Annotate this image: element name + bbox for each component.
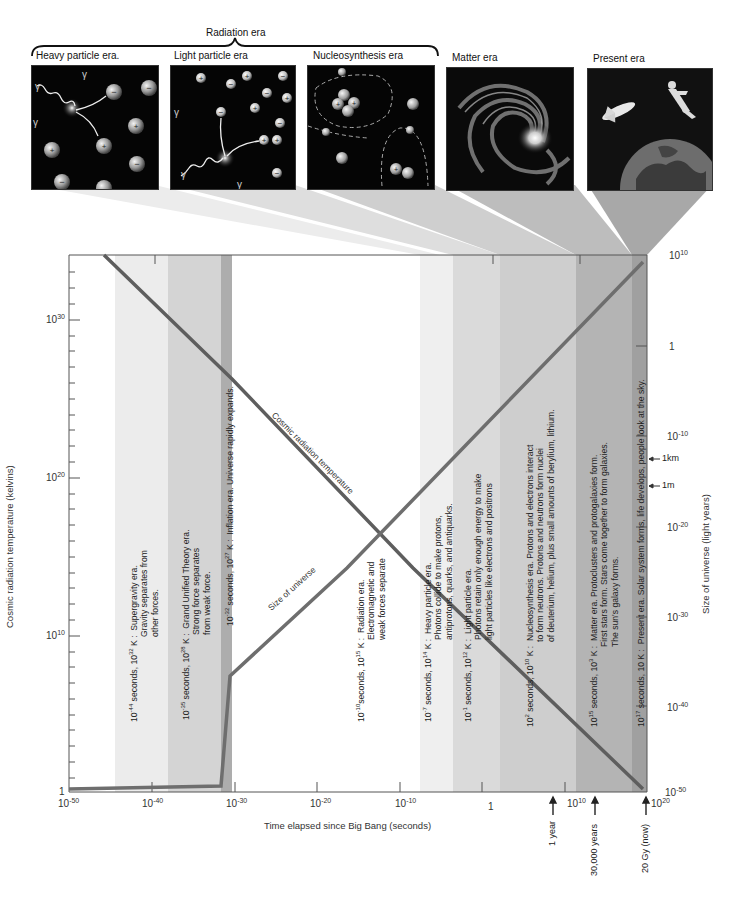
y-right-tick-1: 1 [669, 340, 675, 352]
y-left-axis-title: Cosmic radiation temperature (kelvins) [4, 465, 15, 628]
y-left-tick-1: 1 [59, 785, 65, 797]
y-right-tick-1e10: 1010 [669, 249, 688, 261]
band-text-light-particle: 10-1 seconds, 1012 K : Light particle er… [460, 474, 494, 722]
y-right-tick-1e-40: 10-40 [667, 701, 688, 713]
band-text-present: 1017 seconds, 10 K : Present era. Solar … [633, 379, 646, 727]
marker-1m: 1m [662, 480, 675, 490]
y-right-axis-title: Size of universe (light years) [700, 494, 711, 614]
band-text-gut: 10-35 seconds, 1028 K : Grand Unified Th… [178, 529, 212, 720]
x-tick-1e-50: 10-50 [58, 797, 79, 809]
time-marker-now: 20 Gy (now) [640, 824, 650, 873]
x-tick-1e20: 1020 [651, 797, 670, 809]
x-axis-title: Time elapsed since Big Bang (seconds) [264, 820, 431, 831]
x-tick-1e10: 1010 [567, 797, 586, 809]
x-tick-1e-30: 10-30 [226, 797, 247, 809]
x-tick-1: 1 [488, 800, 494, 812]
y-left-tick-1e30: 1030 [46, 313, 65, 325]
y-right-tick-1e-10: 10-10 [667, 430, 688, 442]
x-tick-1e-10: 10-10 [395, 797, 416, 809]
y-right-tick-1e-20: 10-20 [667, 521, 688, 533]
time-marker-30000-years: 30,000 years [589, 824, 599, 876]
y-left-tick-1e20: 1020 [46, 471, 65, 483]
band-text-matter: 1015 seconds, 103 K : Matter era. Protoc… [586, 442, 620, 727]
band-text-inflation: 10-32 seconds, 1027 K : Inflation era. U… [222, 386, 235, 626]
y-right-tick-1e-30: 10-30 [667, 611, 688, 623]
x-tick-1e-40: 10-40 [142, 797, 163, 809]
x-tick-1e-20: 10-20 [310, 797, 331, 809]
chart-plot-area [0, 0, 736, 897]
band-text-supergravity: 10-44 seconds, 1032 K : Supergravity era… [126, 550, 160, 722]
band-text-heavy-particle: 10-7 seconds, 1014 K : Heavy particle er… [420, 503, 454, 722]
left-axis-ticks [69, 272, 80, 778]
time-markers [550, 797, 649, 815]
size-markers [649, 457, 660, 488]
band-text-nucleosynthesis: 102 seconds, 1010 K : Nucleosynthesis er… [522, 409, 556, 727]
marker-1km: 1km [662, 453, 679, 463]
y-left-tick-1e10: 1010 [46, 629, 65, 641]
band-text-radiation: 10-10seconds, 1015 K : Radiation era. El… [353, 558, 387, 722]
time-marker-1-year: 1 year [547, 821, 557, 846]
